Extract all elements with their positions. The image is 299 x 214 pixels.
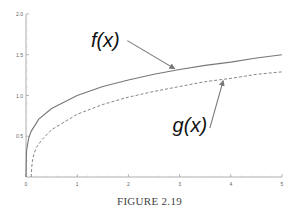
axes: 0123450.51.01.52.0 <box>16 11 284 187</box>
y-tick-label: 1.0 <box>16 93 23 99</box>
x-tick-label: 2 <box>127 181 130 187</box>
annotation-label: g(x) <box>173 114 207 136</box>
y-tick-label: 1.5 <box>16 52 23 58</box>
annotations: f(x)g(x) <box>91 29 223 137</box>
annotation-label: f(x) <box>91 29 120 51</box>
x-tick-label: 5 <box>281 181 284 187</box>
series-gx-line <box>31 72 282 177</box>
x-tick-label: 3 <box>178 181 181 187</box>
x-tick-label: 4 <box>229 181 232 187</box>
chart: 0123450.51.01.52.0 f(x)g(x) <box>0 0 299 190</box>
y-tick-label: 2.0 <box>16 11 23 17</box>
series-group <box>26 55 282 177</box>
series-fx-line <box>26 55 282 177</box>
annotation-arrow <box>210 81 223 128</box>
figure-caption: FIGURE 2.19 <box>0 195 299 207</box>
x-tick-label: 1 <box>76 181 79 187</box>
x-tick-label: 0 <box>25 181 28 187</box>
y-tick-label: 0.5 <box>16 133 23 139</box>
annotation-arrow <box>127 41 174 69</box>
